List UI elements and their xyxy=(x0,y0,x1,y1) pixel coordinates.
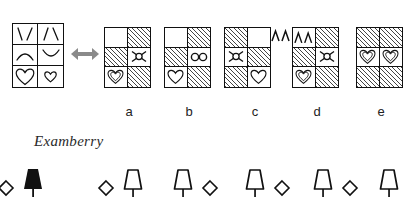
strip-item-6 xyxy=(374,163,404,198)
option-b-cell-5 xyxy=(165,67,188,87)
option-d-cell-1 xyxy=(293,28,316,48)
option-label-d[interactable]: d xyxy=(307,104,327,119)
option-a-cell-2 xyxy=(128,28,151,48)
option-c-outer-glyph xyxy=(270,29,292,44)
option-d-cell-3 xyxy=(293,48,316,68)
bowtie-glyph xyxy=(227,50,245,63)
option-label-c[interactable]: c xyxy=(245,104,265,119)
heart-outline-glyph xyxy=(167,69,184,85)
option-c-matrix[interactable] xyxy=(224,27,271,88)
source-cell-1 xyxy=(13,24,38,45)
strip-item-5 xyxy=(308,163,360,198)
option-label-e[interactable]: e xyxy=(371,104,391,119)
heart-small-glyph xyxy=(44,71,57,83)
heart-double-glyph xyxy=(359,49,376,65)
source-cell-5 xyxy=(13,66,38,87)
option-c-cell-4 xyxy=(248,48,271,68)
diamond-outline-icon xyxy=(96,178,116,198)
option-e-matrix[interactable] xyxy=(356,27,403,88)
lamp-outline-icon xyxy=(240,165,270,198)
option-e-cell-1 xyxy=(357,28,380,48)
double-headed-arrow-icon xyxy=(70,47,100,61)
option-a-cell-6 xyxy=(128,67,151,87)
lamp-filled-icon xyxy=(18,165,48,198)
option-d-cell-6 xyxy=(316,67,339,87)
option-c-cell-1 xyxy=(225,28,248,48)
heart-double-glyph xyxy=(107,69,124,85)
option-b-matrix[interactable] xyxy=(164,27,211,88)
option-a-cell-1 xyxy=(105,28,128,48)
option-b-cell-6 xyxy=(188,67,211,87)
diamond-outline-icon xyxy=(272,178,292,198)
icon-strip xyxy=(0,163,404,198)
option-a-cell-5 xyxy=(105,67,128,87)
strip-item-4 xyxy=(240,163,292,198)
v-shape-glyph xyxy=(14,26,36,42)
source-cell-2 xyxy=(38,24,63,45)
bowtie-glyph xyxy=(130,50,148,63)
source-cell-4 xyxy=(38,45,63,66)
option-e-cell-3 xyxy=(357,48,380,68)
option-d-matrix[interactable] xyxy=(292,27,339,88)
strip-item-3 xyxy=(168,163,220,198)
lambda-shape-glyph xyxy=(40,26,62,42)
option-c-cell-2 xyxy=(248,28,271,48)
option-e-cell-5 xyxy=(357,67,380,87)
bowtie-glyph xyxy=(318,50,336,63)
option-e-cell-6 xyxy=(380,67,403,87)
option-c-cell-6 xyxy=(248,67,271,87)
option-d-cell-5 xyxy=(293,67,316,87)
heart-outline-glyph xyxy=(250,69,267,85)
diamond-outline-icon xyxy=(0,178,16,198)
option-d-cell-4 xyxy=(316,48,339,68)
strip-item-1 xyxy=(0,163,48,198)
arch-down-glyph xyxy=(40,47,62,63)
lamp-outline-icon xyxy=(168,165,198,198)
option-e-cell-2 xyxy=(380,28,403,48)
double-lambda-glyph xyxy=(293,31,315,44)
puzzle-row xyxy=(0,0,404,100)
option-label-a[interactable]: a xyxy=(119,104,139,119)
source-matrix xyxy=(12,23,64,88)
lamp-outline-icon xyxy=(118,165,148,198)
arch-up-glyph xyxy=(14,47,36,63)
option-a-cell-3 xyxy=(105,48,128,68)
heart-double-glyph xyxy=(295,69,312,85)
heart-double-glyph xyxy=(382,49,399,65)
source-cell-6 xyxy=(38,66,63,87)
option-b-cell-3 xyxy=(165,48,188,68)
option-c-cell-3 xyxy=(225,48,248,68)
option-a-matrix[interactable] xyxy=(104,27,151,88)
option-b-cell-2 xyxy=(188,28,211,48)
source-cell-3 xyxy=(13,45,38,66)
diamond-outline-icon xyxy=(200,178,220,198)
option-labels: a b c d e xyxy=(0,104,404,126)
option-e-cell-4 xyxy=(380,48,403,68)
option-c-cell-5 xyxy=(225,67,248,87)
option-d-cell-2 xyxy=(316,28,339,48)
diamond-outline-icon xyxy=(340,178,360,198)
strip-item-2 xyxy=(96,163,148,198)
option-b-cell-4 xyxy=(188,48,211,68)
infinity-glyph xyxy=(190,51,208,63)
option-a-cell-4 xyxy=(128,48,151,68)
watermark-text: Examberry xyxy=(34,133,103,150)
double-lambda-glyph xyxy=(270,29,292,42)
lamp-outline-icon xyxy=(374,165,404,198)
option-label-b[interactable]: b xyxy=(179,104,199,119)
heart-large-glyph xyxy=(15,68,35,86)
lamp-outline-icon xyxy=(308,165,338,198)
option-b-cell-1 xyxy=(165,28,188,48)
